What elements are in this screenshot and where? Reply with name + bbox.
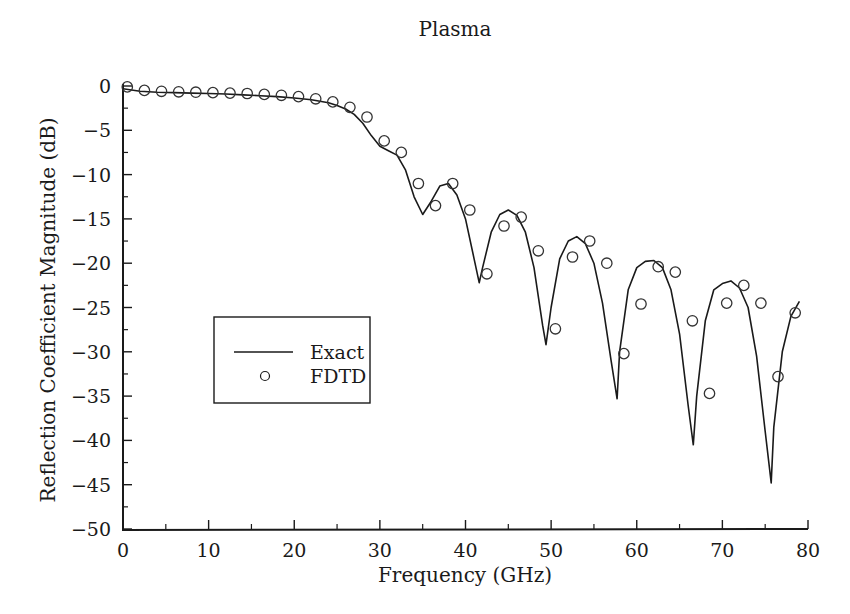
fdtd-data-point [567,252,577,262]
exact-series-line [123,89,799,483]
fdtd-data-point [208,87,218,97]
fdtd-data-point [722,298,732,308]
fdtd-data-point [362,112,372,122]
plot-axes [122,84,808,530]
chart-title: Plasma [419,17,492,41]
fdtd-data-point [756,298,766,308]
fdtd-data-point [636,299,646,309]
legend-label-exact: Exact [310,341,365,363]
fdtd-data-point [704,388,714,398]
fdtd-data-point [156,86,166,96]
x-tick-label: 60 [625,539,649,561]
y-tick-label: −50 [71,518,111,540]
fdtd-data-point [139,85,149,95]
y-axis-label: Reflection Coefficient Magnitude (dB) [36,118,60,503]
fdtd-data-point [550,324,560,334]
x-tick-label: 30 [368,539,392,561]
y-tick-label: −15 [71,208,111,230]
y-tick-label: −5 [83,119,111,141]
fdtd-data-point [739,280,749,290]
fdtd-data-point [430,200,440,210]
y-tick-label: 0 [99,75,111,97]
x-tick-label: 50 [539,539,563,561]
x-tick-label: 40 [453,539,477,561]
x-tick-label: 0 [117,539,129,561]
legend-label-fdtd: FDTD [310,365,366,387]
fdtd-data-point [311,94,321,104]
fdtd-data-point [773,371,783,381]
fdtd-data-point [585,236,595,246]
fdtd-data-point [499,221,509,231]
x-tick-label: 70 [710,539,734,561]
fdtd-data-point [465,205,475,215]
fdtd-data-point [225,88,235,98]
chart-figure: Plasma 0−5−10−15−20−25−30−35−40−45−50 01… [0,0,850,614]
y-tick-label: −40 [71,429,111,451]
fdtd-data-point [670,267,680,277]
x-tick-label: 20 [282,539,306,561]
x-axis-ticks: 01020304050607080 [117,520,820,561]
fdtd-data-point [396,147,406,157]
x-tick-label: 80 [796,539,820,561]
fdtd-data-point [687,316,697,326]
legend: Exact FDTD [214,317,370,403]
x-axis-line [122,529,808,530]
y-tick-label: −25 [71,297,111,319]
fdtd-data-point [413,178,423,188]
y-tick-label: −45 [71,474,111,496]
fdtd-data-point [482,269,492,279]
fdtd-data-point [191,87,201,97]
y-tick-label: −20 [71,252,111,274]
y-tick-label: −30 [71,341,111,363]
fdtd-data-point [533,246,543,256]
fdtd-data-point [174,87,184,97]
fdtd-data-point [242,88,252,98]
fdtd-data-point [259,89,269,99]
y-tick-label: −10 [71,164,111,186]
fdtd-data-point [276,90,286,100]
x-tick-label: 10 [197,539,221,561]
fdtd-data-point [379,136,389,146]
x-axis-label: Frequency (GHz) [378,563,552,587]
fdtd-data-point [602,258,612,268]
y-tick-label: −35 [71,385,111,407]
fdtd-data-point [293,91,303,101]
fdtd-data-point [328,97,338,107]
